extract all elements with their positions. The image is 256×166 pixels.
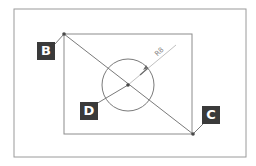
leader-b xyxy=(55,34,64,44)
label-c: C xyxy=(202,106,220,124)
leader-c xyxy=(193,123,204,134)
point-c-icon xyxy=(191,132,195,136)
point-d-icon xyxy=(126,83,130,87)
point-b-icon xyxy=(62,32,66,36)
label-d: D xyxy=(80,102,98,120)
radius-dimension-line xyxy=(128,45,176,85)
leader-d xyxy=(96,85,128,104)
diagram-canvas: B D C R8 xyxy=(0,0,256,166)
drawing xyxy=(0,0,256,166)
label-b: B xyxy=(37,42,55,60)
